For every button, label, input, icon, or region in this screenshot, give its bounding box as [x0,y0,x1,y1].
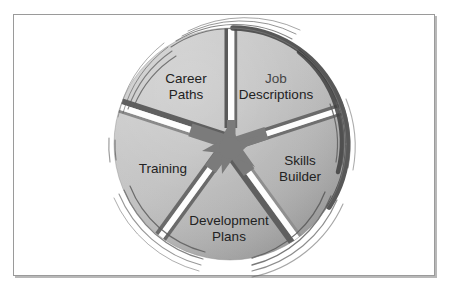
segment-label-training[interactable]: Training [139,161,187,176]
segment-label-job-descriptions-line1: Job [265,71,287,86]
segment-label-development-plans-line1: Development [189,213,269,228]
segment-label-skills-builder-line2: Builder [279,169,322,184]
segment-label-career-paths-line1: Career [165,71,207,86]
segment-label-skills-builder-line1: Skills [284,153,316,168]
segment-label-career-paths[interactable]: Career Paths [165,71,207,102]
segment-label-career-paths-line2: Paths [169,87,204,102]
segment-label-development-plans-line2: Plans [212,229,246,244]
segment-label-training-line1: Training [139,161,187,176]
wheel-diagram: Career Paths Job Descriptions Skills Bui… [0,0,451,300]
page-canvas: Career Paths Job Descriptions Skills Bui… [0,0,451,300]
spoke-top [225,22,238,136]
segment-label-skills-builder[interactable]: Skills Builder [279,153,322,184]
segment-label-job-descriptions-line2: Descriptions [239,87,314,102]
